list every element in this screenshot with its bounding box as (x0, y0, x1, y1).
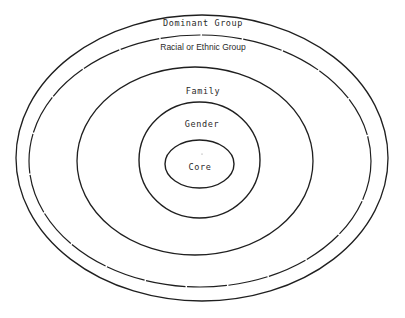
label-racial-ethnic-group: Racial or Ethnic Group (160, 42, 246, 52)
racial-ethnic-group-ring (29, 35, 371, 287)
label-core: Core (189, 162, 212, 172)
label-family: Family (186, 86, 220, 96)
center-dot (201, 153, 202, 154)
dominant-group-ring (16, 15, 388, 301)
label-dominant-group: Dominant Group (163, 18, 243, 28)
label-gender: Gender (185, 119, 219, 129)
